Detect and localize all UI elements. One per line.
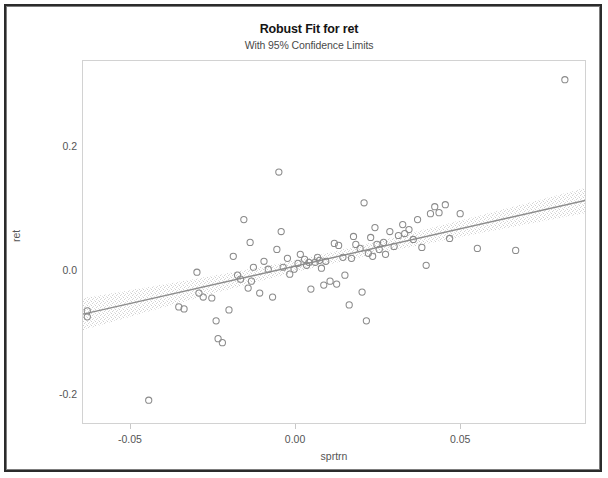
data-point	[308, 286, 314, 292]
data-point	[146, 397, 152, 403]
data-point	[368, 234, 374, 240]
data-point	[363, 318, 369, 324]
data-point	[321, 282, 327, 288]
chart-area: Robust Fit for ret With 95% Confidence L…	[14, 14, 604, 474]
data-point	[226, 307, 232, 313]
data-point	[245, 285, 251, 291]
data-point	[406, 226, 412, 232]
data-point	[442, 202, 448, 208]
data-point	[327, 278, 333, 284]
data-point	[419, 244, 425, 250]
data-point	[350, 233, 356, 239]
data-point	[414, 217, 420, 223]
y-axis-ticks: 0.20.0-0.2	[34, 60, 77, 424]
data-point	[230, 253, 236, 259]
data-point	[513, 247, 519, 253]
data-point	[432, 204, 438, 210]
x-tick-label: 0.05	[450, 433, 470, 445]
data-point	[194, 269, 200, 275]
x-tick-mark	[295, 424, 296, 429]
data-point	[436, 210, 442, 216]
data-point	[274, 246, 280, 252]
x-tick-label: -0.05	[118, 433, 142, 445]
x-tick-mark	[130, 424, 131, 429]
data-point	[387, 228, 393, 234]
chart-title: Robust Fit for ret	[14, 22, 604, 36]
scatter-plot-canvas	[83, 61, 585, 423]
plot-inner	[83, 61, 585, 423]
data-point	[372, 224, 378, 230]
x-axis-label: sprtrn	[82, 450, 586, 462]
screenshot-root: Robust Fit for ret With 95% Confidence L…	[0, 0, 608, 478]
y-tick-label: -0.2	[59, 388, 77, 400]
data-point	[400, 221, 406, 227]
data-point	[284, 255, 290, 261]
x-axis-ticks: -0.050.000.05	[82, 424, 586, 450]
data-point	[562, 77, 568, 83]
y-axis-label: ret	[10, 230, 22, 242]
robust-fit-line	[83, 200, 585, 314]
x-tick-mark	[460, 424, 461, 429]
y-tick-label: 0.2	[62, 140, 77, 152]
data-point-markers	[84, 77, 568, 404]
data-point	[423, 262, 429, 268]
y-tick-label: 0.0	[62, 264, 77, 276]
chart-subtitle: With 95% Confidence Limits	[14, 39, 604, 51]
plot-window-frame: Robust Fit for ret With 95% Confidence L…	[4, 4, 602, 472]
data-point	[359, 289, 365, 295]
data-point	[247, 239, 253, 245]
data-point	[209, 295, 215, 301]
data-point	[361, 200, 367, 206]
data-point	[457, 211, 463, 217]
data-point	[346, 302, 352, 308]
data-point	[278, 228, 284, 234]
data-point	[181, 306, 187, 312]
plot-frame	[82, 60, 586, 424]
x-tick-label: 0.00	[285, 433, 305, 445]
data-point	[276, 169, 282, 175]
confidence-band	[83, 187, 585, 330]
data-point	[342, 272, 348, 278]
data-point	[269, 294, 275, 300]
data-point	[261, 258, 267, 264]
data-point	[427, 211, 433, 217]
data-point	[334, 281, 340, 287]
data-point	[213, 318, 219, 324]
data-point	[257, 290, 263, 296]
data-point	[219, 340, 225, 346]
data-point	[474, 245, 480, 251]
data-point	[241, 217, 247, 223]
